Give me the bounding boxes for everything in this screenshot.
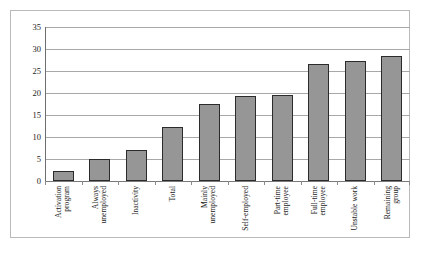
x-axis-label-line: Unstable work: [351, 186, 359, 231]
x-axis-label-line: Total: [169, 186, 177, 202]
x-axis-label-line: unemployed: [209, 186, 217, 224]
bar[interactable]: [126, 150, 147, 181]
x-tick: [301, 181, 302, 185]
bar[interactable]: [308, 64, 329, 181]
y-axis-line: [45, 27, 46, 182]
x-axis-category-labels: ActivationprogramAlwaysunemployedInactiv…: [45, 186, 410, 238]
x-axis-label-5: Mainlyunemployed: [191, 186, 228, 238]
x-axis-label-line: program: [63, 186, 71, 212]
bar[interactable]: [381, 56, 402, 181]
y-tick-label-20: 20: [19, 89, 41, 98]
bar-slot: [374, 27, 411, 181]
y-tick-label-15: 15: [19, 111, 41, 120]
bar[interactable]: [235, 96, 256, 181]
x-axis-label-line: employee: [282, 186, 290, 216]
bar[interactable]: [89, 159, 110, 181]
x-axis-label-line: Inactivity: [132, 186, 140, 215]
bar[interactable]: [272, 95, 293, 181]
x-axis-label-4: Total: [155, 186, 192, 238]
bar-slot: [228, 27, 265, 181]
x-tick: [228, 181, 229, 185]
x-tick: [374, 181, 375, 185]
y-axis-tick-labels: 35302520151050: [15, 27, 41, 181]
x-axis-label-line: employee: [319, 186, 327, 216]
x-tick: [337, 181, 338, 185]
bar-slot: [337, 27, 374, 181]
x-tick: [409, 181, 410, 185]
x-tick: [264, 181, 265, 185]
x-axis-label-10: Remaininggroup: [374, 186, 411, 238]
x-axis-label-8: Full-timeemployee: [301, 186, 338, 238]
x-tick: [82, 181, 83, 185]
x-tick: [118, 181, 119, 185]
x-axis-label-2: Alwaysunemployed: [82, 186, 119, 238]
x-axis-ticks: [45, 181, 410, 185]
x-axis-label-1: Activationprogram: [45, 186, 82, 238]
y-tick-label-35: 35: [19, 23, 41, 32]
bar-slot: [191, 27, 228, 181]
x-axis-label-3: Inactivity: [118, 186, 155, 238]
x-tick: [155, 181, 156, 185]
x-axis-label-9: Unstable work: [337, 186, 374, 238]
plot-area: [45, 27, 410, 181]
chart-frame: 35302520151050 ActivationprogramAlwaysun…: [10, 10, 410, 238]
bar[interactable]: [199, 104, 220, 181]
y-tick-label-10: 10: [19, 133, 41, 142]
y-tick-label-25: 25: [19, 67, 41, 76]
x-tick: [191, 181, 192, 185]
bar-slot: [155, 27, 192, 181]
bar-slot: [301, 27, 338, 181]
bar-slot: [82, 27, 119, 181]
x-axis-label-line: group: [392, 186, 400, 204]
bar[interactable]: [162, 127, 183, 181]
y-tick-label-30: 30: [19, 45, 41, 54]
x-axis-label-line: unemployed: [100, 186, 108, 224]
bar[interactable]: [345, 61, 366, 181]
bar[interactable]: [53, 171, 74, 181]
bar-slot: [264, 27, 301, 181]
y-tick-label-0: 0: [19, 177, 41, 186]
bar-slot: [118, 27, 155, 181]
y-tick-label-5: 5: [19, 155, 41, 164]
x-tick: [45, 181, 46, 185]
x-axis-label-line: Self-employed: [242, 186, 250, 231]
x-axis-label-6: Self-employed: [228, 186, 265, 238]
bar-slot: [45, 27, 82, 181]
x-axis-label-7: Part-timeemployee: [264, 186, 301, 238]
